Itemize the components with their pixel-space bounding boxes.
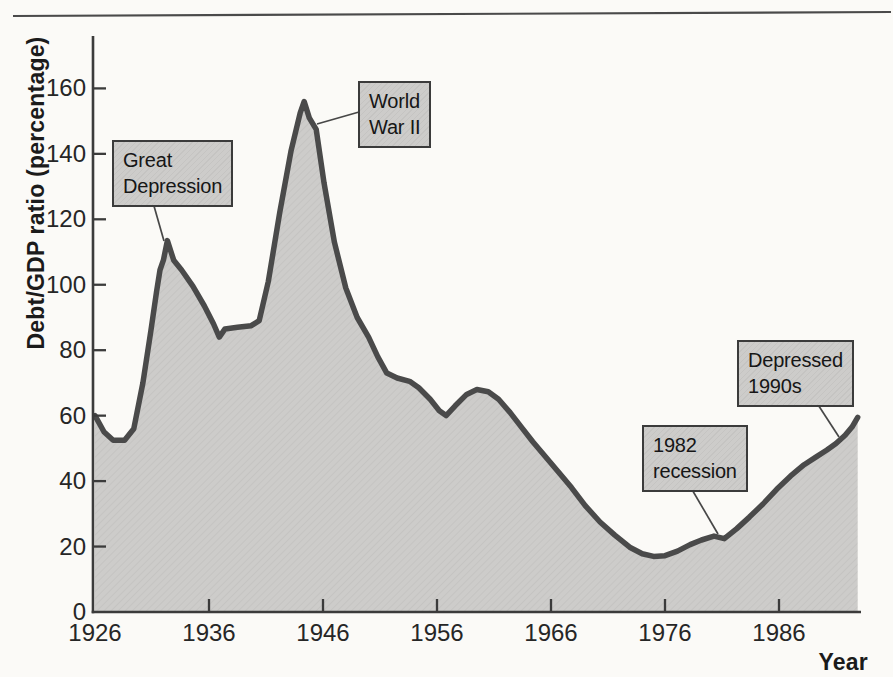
chart-canvas: 1926193619461956196619761986020406080100… bbox=[0, 0, 893, 677]
y-tick-label: 100 bbox=[46, 271, 86, 298]
y-tick-label: 0 bbox=[73, 598, 86, 625]
x-tick-label: 1946 bbox=[296, 619, 349, 646]
annotation-1982-recession: 1982 recession bbox=[642, 425, 748, 492]
x-tick-label: 1976 bbox=[638, 619, 691, 646]
annotation-text-line: Depression bbox=[123, 173, 222, 199]
y-tick-label: 160 bbox=[46, 74, 86, 101]
annotation-text-line: Depressed bbox=[748, 347, 843, 373]
x-tick-label: 1936 bbox=[182, 619, 235, 646]
annotation-leader-line bbox=[317, 112, 359, 124]
y-tick-label: 40 bbox=[59, 467, 86, 494]
annotation-text-line: World bbox=[369, 88, 420, 114]
x-axis-title: Year bbox=[760, 649, 868, 676]
y-tick-label: 20 bbox=[59, 533, 86, 560]
x-tick-label: 1986 bbox=[752, 619, 805, 646]
top-rule bbox=[13, 12, 891, 16]
annotation-text-line: War II bbox=[369, 114, 420, 140]
y-tick-label: 60 bbox=[59, 402, 86, 429]
x-tick-label: 1956 bbox=[410, 619, 463, 646]
annotation-depressed-1990s: Depressed 1990s bbox=[737, 340, 854, 407]
y-tick-label: 140 bbox=[46, 140, 86, 167]
x-tick-label: 1966 bbox=[524, 619, 577, 646]
annotation-text-line: 1990s bbox=[748, 373, 843, 399]
annotation-text-line: 1982 bbox=[653, 432, 737, 458]
y-axis-title: Debt/GDP ratio (percentage) bbox=[21, 3, 51, 383]
y-tick-label: 120 bbox=[46, 205, 86, 232]
annotation-great-depression: Great Depression bbox=[112, 140, 233, 207]
y-tick-label: 80 bbox=[59, 336, 86, 363]
annotation-text-line: Great bbox=[123, 147, 222, 173]
annotation-text-line: recession bbox=[653, 458, 737, 484]
annotation-world-war-ii: World War II bbox=[358, 81, 431, 148]
debt-gdp-ratio-figure: 1926193619461956196619761986020406080100… bbox=[0, 0, 893, 677]
